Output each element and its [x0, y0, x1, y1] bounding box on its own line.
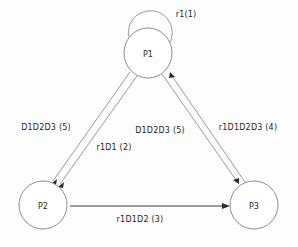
edge-label-p1-p2-inner: r1D1 (2) [96, 143, 131, 152]
diagram-canvas: r1(1) D1D2D3 (5) r1D1 (2) D1D2D3 (5) r1D… [0, 0, 298, 247]
edge-p1-to-p2-inner[interactable]: r1D1 (2) [58, 76, 137, 188]
edge-label-p2-p3: r1D1D2 (3) [117, 215, 164, 224]
node-p2-label: P2 [38, 202, 48, 211]
edge-label-p1-p2-outer: D1D2D3 (5) [21, 123, 71, 132]
edge-p2-p3-arrowhead-icon [222, 203, 230, 209]
edge-label-self-loop: r1(1) [176, 10, 197, 19]
node-p3[interactable]: P3 [230, 181, 278, 229]
node-p3-label: P3 [249, 202, 259, 211]
state-transition-diagram: r1(1) D1D2D3 (5) r1D1 (2) D1D2D3 (5) r1D… [0, 0, 298, 247]
edge-p1-to-p2-outer[interactable]: D1D2D3 (5) [21, 72, 130, 185]
node-p1[interactable]: P1 [124, 28, 172, 78]
edge-label-p1-p3: D1D2D3 (5) [135, 126, 185, 135]
edge-p1-p3-arrowhead-icon [233, 178, 239, 184]
edge-p1-p2-inner-line [60, 76, 137, 184]
edge-label-p3-p1: r1D1D2D3 (4) [219, 123, 277, 132]
edge-p3-to-p1[interactable]: r1D1D2D3 (4) [169, 72, 277, 182]
node-p2[interactable]: P2 [19, 181, 67, 229]
edge-p3-p1-arrowhead-icon [169, 72, 175, 78]
edge-p2-to-p3[interactable]: r1D1D2 (3) [70, 203, 230, 224]
node-p1-label: P1 [143, 50, 153, 59]
